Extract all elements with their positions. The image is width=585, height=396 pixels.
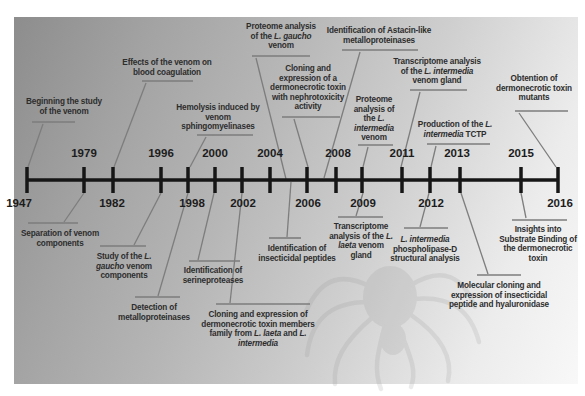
event-label-proteome-gaucho: Proteome analysisof the L. gauchovenom (246, 22, 316, 51)
event-label-transcriptome-laeta: Transcriptomeanalysis of the L.laeta ven… (329, 222, 393, 260)
event-label-insights-binding: Insights intoSubstrate Binding ofthe der… (499, 225, 577, 263)
event-label-obtention-mutants: Obtention ofdermonecrotic toxinmutants (496, 74, 572, 103)
year-label-1998: 1998 (179, 197, 205, 209)
event-label-cloning-nephrotoxic: Cloning andexpression of adermonecrotic … (270, 64, 346, 112)
year-label-2009: 2009 (350, 197, 376, 209)
event-label-separation-components: Separation of venomcomponents (21, 229, 99, 248)
event-label-serineproteases: Identification ofserineproteases (183, 266, 244, 285)
event-label-production-tctp: Production of the L.intermedia TCTP (418, 120, 492, 139)
labels-layer: 1947197919821996199820002002200420062008… (0, 0, 585, 396)
event-label-cloning-members: Cloning and expression ofdermonecrotic t… (201, 310, 314, 348)
event-label-astacin-metallo: Identification of Astacin-likemetallopro… (327, 26, 431, 45)
year-label-2015: 2015 (508, 147, 534, 159)
event-label-beginning-study: Beginning the studyof the venom (26, 97, 102, 116)
year-label-2013: 2013 (444, 147, 470, 159)
figure-canvas: 1947197919821996199820002002200420062008… (0, 0, 585, 396)
year-label-2006: 2006 (295, 197, 321, 209)
event-label-proteome-intermedia: Proteomeanalysis ofthe L.intermediavenom (354, 95, 395, 143)
event-label-detection-metallo: Detection ofmetalloproteinases (118, 303, 190, 322)
year-label-1982: 1982 (99, 197, 125, 209)
event-label-effects-coagulation: Effects of the venom onblood coagulation (122, 58, 211, 77)
year-label-2000: 2000 (202, 147, 228, 159)
year-label-1979: 1979 (71, 147, 97, 159)
event-label-insecticidal-peptides: Identification ofinsecticidal peptides (258, 244, 335, 263)
year-label-2008: 2008 (325, 147, 351, 159)
event-label-transcriptome-intermedia: Transcriptome analysisof the L. intermed… (393, 57, 481, 86)
year-label-2002: 2002 (230, 197, 256, 209)
year-label-1996: 1996 (148, 147, 174, 159)
event-label-phospholipase-d: L. intermediaphospholipase-Dstructural a… (390, 235, 460, 264)
year-label-2011: 2011 (390, 147, 415, 159)
year-label-1947: 1947 (6, 197, 32, 209)
event-label-molecular-cloning: Molecular cloning andexpression of insec… (449, 281, 549, 310)
event-label-study-gaucho: Study of the L.gaucho venomcomponents (96, 252, 152, 281)
year-label-2004: 2004 (257, 147, 283, 159)
year-label-2016: 2016 (547, 197, 573, 209)
event-label-hemolysis-sphingo: Hemolysis induced byvenomsphingomyelinas… (176, 103, 259, 132)
year-label-2012: 2012 (418, 197, 444, 209)
